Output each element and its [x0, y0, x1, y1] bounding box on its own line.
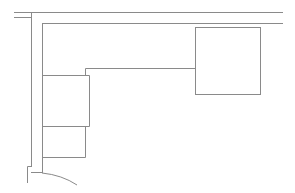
cabinet-lower [43, 127, 86, 158]
cabinet-upper [43, 76, 90, 127]
door-swing-arc [42, 173, 77, 185]
appliance-box [196, 28, 261, 95]
floor-plan-drawing [0, 0, 295, 193]
door-jamb [28, 167, 32, 184]
counter-edge [86, 69, 196, 76]
